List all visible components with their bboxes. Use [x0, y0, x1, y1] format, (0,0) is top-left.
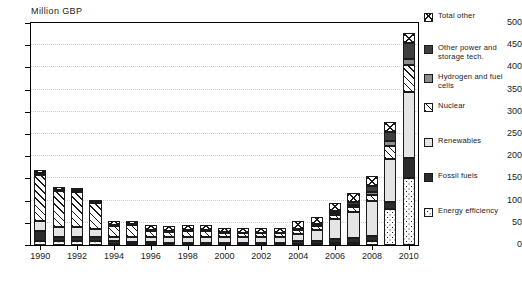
bar-2003[interactable] [274, 23, 286, 245]
bar-segment [403, 43, 415, 59]
bar-segment [126, 242, 138, 244]
bar-segment [329, 243, 341, 245]
bar-segment [89, 229, 101, 238]
bar-segment [237, 237, 249, 242]
dark-solid-swatch [424, 173, 433, 182]
bar-2001[interactable] [237, 23, 249, 245]
legend-item[interactable]: Hydrogen and fuel cells [424, 73, 520, 91]
bar-segment [126, 221, 138, 225]
x-axis-tick-mark [261, 246, 262, 250]
bar-segment [403, 59, 415, 65]
legend: Total otherOther power and storage tech.… [424, 12, 520, 242]
bar-segment [311, 241, 323, 244]
bar-segment [145, 225, 157, 230]
y-axis-title: Million GBP [31, 6, 82, 16]
x-axis-tick-label: 2004 [278, 252, 318, 261]
legend-item[interactable]: Renewables [424, 137, 520, 155]
bar-segment [347, 207, 359, 212]
bar-segment [311, 230, 323, 241]
legend-item-label: Fossil fuels [438, 172, 520, 181]
bar-1998[interactable] [182, 23, 194, 245]
bar-segment [34, 241, 46, 245]
bar-segment [384, 202, 396, 209]
legend-item-label: Hydrogen and fuel cells [438, 73, 520, 90]
bar-segment [329, 203, 341, 211]
bar-segment [71, 241, 83, 245]
bar-segment [347, 243, 359, 245]
x-axis-tick-mark [77, 246, 78, 250]
bar-1999[interactable] [200, 23, 212, 245]
bar-segment [218, 228, 230, 232]
bar-segment [218, 237, 230, 243]
bar-segment [311, 217, 323, 224]
bar-segment [311, 226, 323, 230]
bar-segment [53, 237, 65, 242]
x-axis-tick-mark [298, 246, 299, 250]
bar-segment [53, 191, 65, 227]
bar-segment [384, 146, 396, 159]
bar-segment [347, 238, 359, 242]
bar-1995[interactable] [126, 23, 138, 245]
legend-item[interactable]: Energy efficiency [424, 207, 520, 225]
bar-segment [108, 226, 120, 237]
dotted-swatch [424, 208, 433, 217]
bar-segment [255, 228, 267, 232]
bar-1990[interactable] [34, 23, 46, 245]
bar-segment [126, 225, 138, 237]
bar-2009[interactable] [384, 23, 396, 245]
bar-segment [108, 221, 120, 225]
y-axis-tick-mark [25, 45, 30, 46]
bar-2008[interactable] [366, 23, 378, 245]
legend-item[interactable]: Nuclear [424, 102, 520, 120]
diagonal-hatch-swatch [424, 103, 433, 112]
bar-2005[interactable] [311, 23, 323, 245]
bar-2000[interactable] [218, 23, 230, 245]
bar-2002[interactable] [255, 23, 267, 245]
x-axis-tick-label: 1994 [94, 252, 134, 261]
bar-segment [384, 132, 396, 141]
bar-1994[interactable] [108, 23, 120, 245]
x-axis-tick-mark [372, 246, 373, 250]
bar-segment [366, 195, 378, 201]
bar-2010[interactable] [403, 23, 415, 245]
legend-item-label: Renewables [438, 137, 520, 146]
bar-segment [71, 188, 83, 191]
y-axis-tick-mark [25, 90, 30, 91]
cross-hatch-swatch [424, 13, 433, 22]
x-axis-tick-label: 1992 [57, 252, 97, 261]
bar-segment [34, 175, 46, 221]
bar-segment [255, 237, 267, 242]
bar-1992[interactable] [71, 23, 83, 245]
bar-segment [89, 241, 101, 245]
bar-segment [53, 227, 65, 237]
bar-segment [182, 237, 194, 243]
bar-segment [145, 237, 157, 242]
bar-1991[interactable] [53, 23, 65, 245]
x-axis-tick-label: 2008 [352, 252, 392, 261]
x-axis-tick-label: 2002 [241, 252, 281, 261]
bar-2007[interactable] [347, 23, 359, 245]
bar-segment [163, 237, 175, 242]
legend-item[interactable]: Fossil fuels [424, 172, 520, 190]
legend-item[interactable]: Other power and storage tech. [424, 44, 520, 62]
legend-item[interactable]: Total other [424, 12, 520, 30]
bar-segment [53, 241, 65, 245]
x-axis-tick-mark [225, 246, 226, 250]
bar-1993[interactable] [89, 23, 101, 245]
bar-segment [237, 228, 249, 232]
bar-segment [384, 122, 396, 132]
x-axis-tick-mark [114, 246, 115, 250]
bar-2004[interactable] [292, 23, 304, 245]
bar-2006[interactable] [329, 23, 341, 245]
bar-1996[interactable] [145, 23, 157, 245]
bar-1997[interactable] [163, 23, 175, 245]
bar-segment [71, 227, 83, 237]
bar-segment [292, 234, 304, 242]
y-axis-tick-mark [25, 245, 30, 246]
bar-segment [34, 173, 46, 175]
bar-segment [34, 231, 46, 241]
bar-segment [89, 237, 101, 241]
y-axis-tick-mark [25, 223, 30, 224]
bar-segment [145, 242, 157, 244]
y-axis-tick-mark [25, 112, 30, 113]
